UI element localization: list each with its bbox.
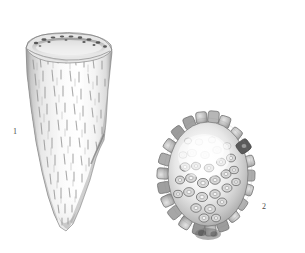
specimen-2-tuberculate (158, 110, 262, 244)
figure-label-2: 2 (262, 203, 266, 211)
figure-label-1: 1 (13, 128, 17, 136)
specimen-1-conical (18, 30, 118, 235)
fossil-plate: 1 2 (0, 0, 305, 253)
